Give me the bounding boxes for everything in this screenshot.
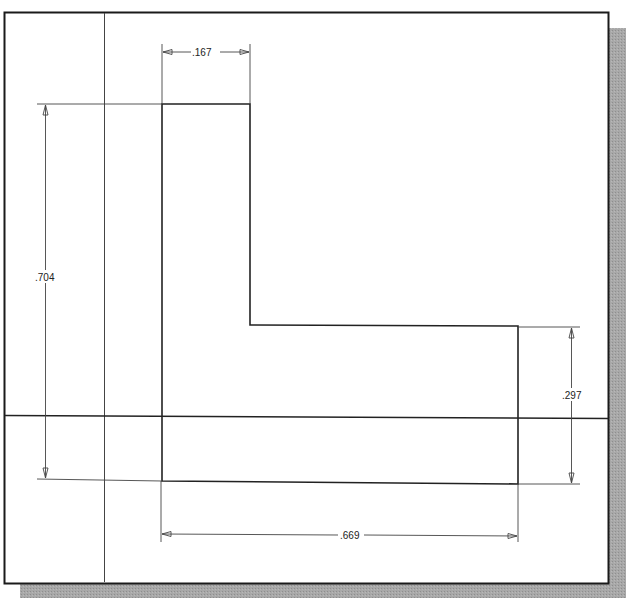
dimension-label-overall-height: .704: [35, 272, 55, 283]
dimension-label-top-width: .167: [192, 47, 212, 58]
dimension-label-right-height: .297: [562, 390, 582, 401]
dimension-label-bottom-width: .669: [340, 530, 360, 541]
sketch-canvas[interactable]: .167 .704 .297 .669: [0, 0, 628, 605]
